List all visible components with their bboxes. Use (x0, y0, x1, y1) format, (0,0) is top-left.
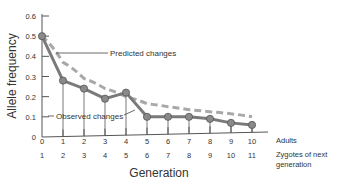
annotations: Predicted changesObserved changes (48, 49, 176, 121)
row2-label-line1: Zygotes of next (276, 150, 328, 159)
y-tick-label: 0 (32, 133, 36, 142)
observed-marker (185, 113, 192, 120)
observed-changes-label: Observed changes (56, 112, 123, 121)
observed-marker (80, 85, 87, 92)
y-tick-label: 0.3 (26, 73, 36, 82)
x-tick-label-zygotes: 7 (166, 151, 170, 160)
x-tick-label-zygotes: 1 (40, 151, 44, 160)
y-axis-label: Allele frequency (5, 33, 19, 118)
x-tick-label-zygotes: 5 (124, 151, 128, 160)
x-tick-label-adults: 6 (166, 137, 170, 146)
row1-label: Adults (276, 136, 297, 145)
x-tick-label-zygotes: 4 (103, 151, 107, 160)
observed-marker (143, 113, 150, 120)
observed-marker (248, 121, 255, 128)
x-axis: 0112233445566778899101011 (40, 125, 268, 160)
observed-marker (122, 89, 129, 96)
x-tick-label-adults: 8 (208, 137, 212, 146)
observed-marker (227, 119, 234, 126)
x-tick-label-zygotes: 2 (61, 151, 65, 160)
y-tick-label: 0.1 (26, 113, 36, 122)
observed-marker (206, 115, 213, 122)
x-tick-label-zygotes: 9 (208, 151, 212, 160)
y-tick-label: 0.6 (26, 12, 36, 21)
x-tick-label-zygotes: 3 (82, 151, 86, 160)
row2-label-line2: generation (276, 160, 311, 169)
y-tick-label: 0.2 (26, 93, 36, 102)
predicted-changes-label: Predicted changes (110, 49, 176, 58)
x-tick-label-adults: 7 (187, 137, 191, 146)
x-tick-label-adults: 9 (229, 137, 233, 146)
y-tick-label: 0.4 (26, 52, 36, 61)
allele-frequency-chart: 00.10.20.30.40.50.6 01122334455667788991… (0, 0, 342, 189)
x-tick-label-zygotes: 10 (227, 151, 235, 160)
x-tick-label-zygotes: 11 (248, 151, 256, 160)
x-tick-label-adults: 10 (248, 137, 256, 146)
x-tick-label-adults: 2 (82, 137, 86, 146)
observed-marker (59, 77, 66, 84)
x-tick-label-adults: 0 (40, 137, 44, 146)
x-axis-label: Generation (129, 166, 188, 180)
x-tick-label-zygotes: 8 (187, 151, 191, 160)
x-tick-label-adults: 5 (145, 137, 149, 146)
x-tick-label-adults: 3 (103, 137, 107, 146)
x-axis-line (42, 132, 268, 137)
x-tick-label-adults: 4 (124, 137, 128, 146)
observed-marker (101, 95, 108, 102)
y-axis: 00.10.20.30.40.50.6 (26, 12, 49, 142)
y-tick-label: 0.5 (26, 32, 36, 41)
observed-marker (38, 33, 45, 40)
x-tick-label-adults: 1 (61, 137, 65, 146)
x-tick-label-zygotes: 6 (145, 151, 149, 160)
observed-marker (164, 113, 171, 120)
